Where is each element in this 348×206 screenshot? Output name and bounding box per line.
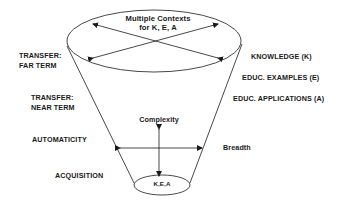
- top-title-line2: for K, E, A: [118, 23, 198, 32]
- complexity-label: Complexity: [132, 115, 186, 125]
- label-automaticity: AUTOMATICITY: [32, 135, 87, 145]
- label-educ-applications: EDUC. APPLICATIONS (A): [233, 94, 324, 104]
- cone-right-edge: [190, 44, 242, 183]
- top-title-line1: Multiple Contexts: [118, 14, 198, 23]
- transfer-far-line2: FAR TERM: [19, 61, 61, 71]
- transfer-far-line1: TRANSFER:: [19, 51, 61, 61]
- label-acquisition: ACQUISITION: [55, 171, 103, 181]
- transfer-near-line2: NEAR TERM: [31, 103, 75, 113]
- cone-left-edge: [67, 46, 134, 183]
- top-ellipse-title: Multiple Contexts for K, E, A: [118, 14, 198, 33]
- breadth-label: Breadth: [223, 143, 251, 153]
- label-knowledge: KNOWLEDGE (K): [251, 52, 312, 62]
- label-transfer-far-term: TRANSFER: FAR TERM: [19, 51, 61, 70]
- transfer-near-line1: TRANSFER:: [31, 93, 75, 103]
- label-transfer-near-term: TRANSFER: NEAR TERM: [31, 93, 75, 112]
- label-educ-examples: EDUC. EXAMPLES (E): [242, 73, 319, 83]
- bottom-ellipse-label: K,E,A: [142, 180, 182, 189]
